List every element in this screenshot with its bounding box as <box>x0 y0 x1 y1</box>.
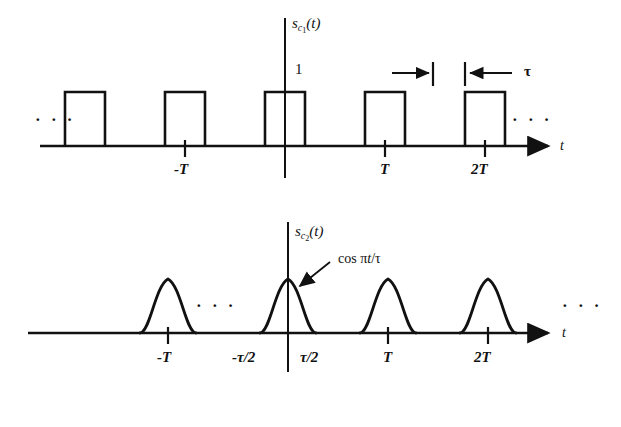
pulse-cosine <box>460 279 516 333</box>
tau-label-top: τ <box>524 64 531 79</box>
pulse-rect <box>465 92 505 146</box>
ellipsis-right-top: · · · <box>512 110 553 130</box>
pulse-cosine <box>140 279 196 333</box>
xtick-label-bottom-T: T <box>383 350 392 365</box>
xtick-label-bottom-tau-half: τ/2 <box>300 350 318 365</box>
ellipsis-left-bottom: · · · <box>196 296 237 316</box>
figure-pulse-trains: sc1(t) 1 τ · · · · · · -T T 2T t sc2(t) … <box>0 0 621 427</box>
signal-label-top-arg: (t) <box>306 15 320 31</box>
signal-label-top: sc1(t) <box>292 16 320 35</box>
ellipsis-left-top: · · · <box>35 110 76 130</box>
signal-label-bottom-arg: (t) <box>309 223 323 239</box>
xtick-label-top-T: T <box>380 162 389 177</box>
axis-label-top-t: t <box>560 139 564 153</box>
xtick-label-bottom-2T: 2T <box>474 350 491 365</box>
cos-annotation-cos: cos <box>338 251 360 266</box>
ellipsis-right-bottom: · · · <box>562 296 603 316</box>
axis-label-bottom-t: t <box>562 326 566 340</box>
pulse-cosine <box>360 279 416 333</box>
xtick-label-top-2T: 2T <box>471 162 488 177</box>
amplitude-label-one: 1 <box>295 62 303 77</box>
cos-annotation-slash-tau: /τ <box>371 251 381 266</box>
cos-annotation-arrow <box>300 262 330 286</box>
pulse-rect <box>365 92 405 146</box>
xtick-label-bottom-minus-tau-half: -τ/2 <box>232 350 255 365</box>
pulse-rect <box>165 92 205 146</box>
cos-annotation-label: cos πt/τ <box>338 252 381 266</box>
xtick-label-bottom-minusT: -T <box>157 350 171 365</box>
panel-top-graphics <box>40 18 548 178</box>
signal-label-bottom: sc2(t) <box>295 224 323 243</box>
panel-bottom-graphics <box>28 222 548 372</box>
xtick-label-top-minusT: -T <box>174 162 188 177</box>
